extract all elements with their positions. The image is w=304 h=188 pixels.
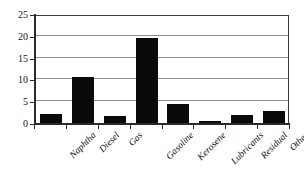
x-label-naphtha: Naphtha [68,130,98,160]
x-tick-0 [34,125,35,129]
bar-chart-figure: 0510152025 NaphthaDieselGasGasolineKeros… [0,0,304,188]
x-tick-6 [225,125,226,129]
x-label-gas: Gas [126,130,144,148]
bar-kerosene [167,104,189,123]
x-tick-2 [98,125,99,129]
x-label-diesel: Diesel [97,130,121,154]
y-tick-15 [30,59,35,60]
x-tick-3 [130,125,131,129]
y-tick-10 [30,80,35,81]
bar-residual [231,115,253,123]
bar-gasoline [136,38,158,123]
bar-gas [104,116,126,123]
x-label-gasoline: Gasoline [164,130,195,161]
x-label-kerosene: Kerosene [196,130,228,162]
y-tick-label-15: 15 [0,54,28,64]
y-tick-label-20: 20 [0,32,28,42]
y-tick-label-10: 10 [0,75,28,85]
x-tick-7 [257,125,258,129]
y-axis-line [34,14,36,125]
bar-naphtha [40,114,62,123]
gridline-15 [35,57,288,58]
y-tick-label-25: 25 [0,10,28,20]
y-tick-label-0: 0 [0,119,28,129]
x-label-lubricants: Lubricants [229,130,265,166]
bar-diesel [72,77,94,123]
x-label-other: Other [288,130,304,153]
x-tick-4 [162,125,163,129]
y-tick-20 [30,37,35,38]
y-tick-5 [30,102,35,103]
y-tick-label-5: 5 [0,97,28,107]
plot-area [34,15,289,124]
bar-other [263,111,285,123]
gridline-20 [35,35,288,36]
y-tick-25 [30,15,35,16]
x-tick-8 [289,125,290,129]
x-tick-1 [66,125,67,129]
x-tick-5 [193,125,194,129]
